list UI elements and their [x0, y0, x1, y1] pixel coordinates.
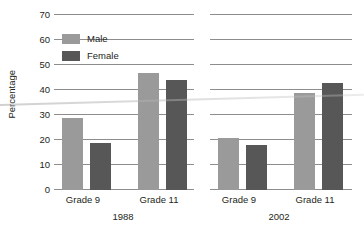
y-tick-50: 50 — [30, 60, 50, 70]
y-tick-20: 20 — [30, 135, 50, 145]
y-tick-40: 40 — [30, 85, 50, 95]
x-label-2002-grade11: Grade 11 — [280, 194, 350, 205]
y-axis-title: Percentage — [6, 70, 17, 119]
y-tick-0: 0 — [30, 185, 50, 195]
bar-2002-grade11-female[interactable] — [322, 83, 343, 191]
legend-item-female[interactable]: Female — [62, 47, 119, 64]
bar-2002-grade9-male[interactable] — [218, 138, 239, 191]
legend-item-male[interactable]: Male — [62, 30, 119, 47]
legend-swatch-male-icon — [62, 34, 80, 44]
legend: Male Female — [62, 30, 119, 64]
legend-label-male: Male — [87, 33, 108, 44]
x-label-1988-grade9: Grade 9 — [48, 194, 118, 205]
y-tick-60: 60 — [30, 35, 50, 45]
bar-2002-grade9-female[interactable] — [246, 145, 267, 190]
bar-1988-grade11-female[interactable] — [166, 80, 187, 190]
legend-label-female: Female — [87, 50, 119, 61]
bar-1988-grade11-male[interactable] — [138, 73, 159, 191]
y-tick-10: 10 — [30, 160, 50, 170]
legend-swatch-female-icon — [62, 51, 80, 61]
bar-1988-grade9-male[interactable] — [62, 118, 83, 191]
bar-chart-figure: Percentage 70 60 50 40 30 20 10 0 — [0, 0, 364, 238]
y-axis-tick-labels: 70 60 50 40 30 20 10 0 — [28, 14, 50, 190]
period-label-2002: 2002 — [244, 211, 314, 222]
bar-1988-grade9-female[interactable] — [90, 143, 111, 191]
x-label-2002-grade9: Grade 9 — [204, 194, 274, 205]
y-tick-70: 70 — [30, 10, 50, 20]
bar-2002-grade11-male[interactable] — [294, 93, 315, 191]
period-label-1988: 1988 — [88, 211, 158, 222]
x-label-1988-grade11: Grade 11 — [124, 194, 194, 205]
y-tick-30: 30 — [30, 110, 50, 120]
